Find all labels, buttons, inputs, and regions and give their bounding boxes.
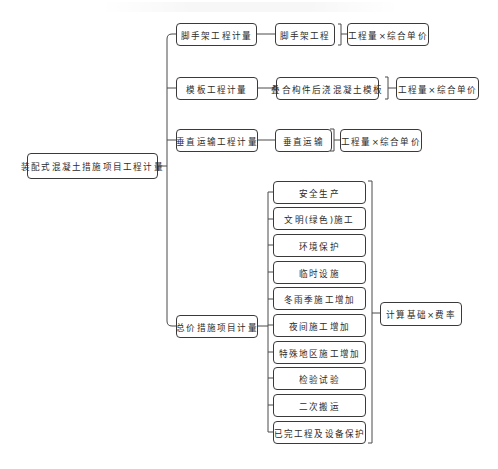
formula-lump-sum[interactable]: 计算基础×费率 [380, 302, 462, 326]
item-temporary-facilities[interactable]: 临时设施 [273, 261, 366, 284]
item-night-construction[interactable]: 夜间施工增加 [273, 314, 366, 337]
branch-scaffolding[interactable]: 脚手架工程计量 [176, 23, 257, 46]
branch-formwork[interactable]: 模板工程计量 [176, 77, 258, 100]
item-completed-works-protection[interactable]: 已完工程及设备保护 [273, 421, 366, 444]
item-winter-rainy-season[interactable]: 冬雨季施工增加 [273, 287, 366, 310]
item-label: 二次搬运 [299, 400, 340, 412]
item-label: 夜间施工增加 [289, 320, 350, 332]
item-label: 冬雨季施工增加 [284, 293, 355, 305]
branch-vertical-transport[interactable]: 垂直运输工程计量 [176, 129, 258, 152]
item-vertical-transport[interactable]: 垂直运输 [275, 129, 332, 152]
root-node[interactable]: 装配式混凝土措施项目工程计量 [27, 153, 158, 179]
item-label: 脚手架工程 [280, 29, 331, 41]
item-label: 叠合构件后浇混凝土模板 [271, 83, 383, 95]
diagram-canvas: 装配式混凝土措施项目工程计量 脚手架工程计量 脚手架工程 工程量×综合单价 模板… [0, 0, 498, 469]
branch-label: 总价措施项目计量 [176, 321, 258, 333]
formula-label: 工程量×综合单价 [341, 135, 421, 147]
item-label: 临时设施 [299, 267, 340, 279]
formula-formwork[interactable]: 工程量×综合单价 [396, 77, 479, 100]
formula-label: 计算基础×费率 [386, 308, 456, 320]
item-environmental-protection[interactable]: 环境保护 [273, 234, 366, 257]
item-label: 垂直运输 [283, 135, 324, 147]
formula-scaffolding[interactable]: 工程量×综合单价 [347, 23, 429, 46]
item-special-area-construction[interactable]: 特殊地区施工增加 [273, 341, 366, 364]
branch-label: 垂直运输工程计量 [176, 135, 258, 147]
branch-lump-sum-measures[interactable]: 总价措施项目计量 [176, 315, 258, 338]
item-civilized-construction[interactable]: 文明(绿色)施工 [273, 207, 366, 230]
branch-label: 模板工程计量 [186, 83, 247, 95]
branch-label: 脚手架工程计量 [181, 29, 252, 41]
formula-label: 工程量×综合单价 [398, 83, 478, 95]
item-composite-formwork[interactable]: 叠合构件后浇混凝土模板 [276, 77, 379, 100]
item-label: 环境保护 [299, 240, 340, 252]
item-scaffolding-work[interactable]: 脚手架工程 [275, 23, 335, 46]
item-inspection-testing[interactable]: 检验试验 [273, 367, 366, 390]
formula-label: 工程量×综合单价 [348, 29, 428, 41]
item-safety-production[interactable]: 安全生产 [273, 181, 366, 204]
item-secondary-handling[interactable]: 二次搬运 [273, 394, 366, 417]
item-label: 文明(绿色)施工 [284, 213, 354, 225]
item-label: 特殊地区施工增加 [279, 347, 361, 359]
item-label: 检验试验 [299, 373, 340, 385]
connector-lines [0, 0, 498, 469]
item-label: 已完工程及设备保护 [274, 427, 366, 439]
item-label: 安全生产 [299, 187, 340, 199]
root-label: 装配式混凝土措施项目工程计量 [21, 160, 164, 172]
formula-vertical-transport[interactable]: 工程量×综合单价 [340, 129, 422, 152]
